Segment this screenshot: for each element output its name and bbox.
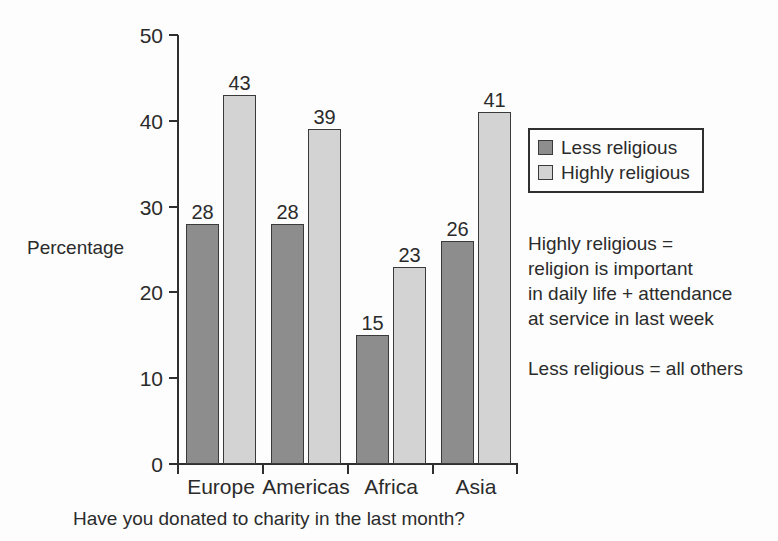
note-highly-religious-definition: Highly religious = religion is important… (528, 231, 743, 331)
chart-figure: Percentage 50 40 30 20 10 0 (0, 0, 778, 541)
x-tick-label-europe: Europe (187, 476, 255, 497)
bar-value-europe-highly: 43 (228, 73, 250, 93)
bar-value-americas-less: 28 (276, 202, 298, 222)
bar-value-americas-highly: 39 (313, 107, 335, 127)
legend-label-less-religious: Less religious (561, 138, 677, 157)
plot-area: 50 40 30 20 10 0 28 43 (178, 35, 517, 464)
bar-group-europe: 28 43 Europe (186, 35, 256, 464)
chart-caption: Have you donated to charity in the last … (73, 509, 465, 528)
bar-group-americas: 28 39 Americas (271, 35, 341, 464)
bar-europe-highly-religious[interactable]: 43 (223, 95, 256, 464)
x-tick-label-asia: Asia (456, 476, 497, 497)
y-tick-label-10: 10 (140, 368, 163, 389)
note-line-5: Less religious = all others (528, 356, 743, 381)
legend-item-highly-religious[interactable]: Highly religious (538, 160, 690, 185)
note-less-religious-definition: Less religious = all others (528, 356, 743, 381)
note-line-3: in daily life + attendance (528, 281, 743, 306)
x-tick-label-americas: Americas (262, 476, 350, 497)
y-tick-label-0: 0 (151, 454, 163, 475)
bar-europe-less-religious[interactable]: 28 (186, 224, 219, 464)
y-tick-label-20: 20 (140, 282, 163, 303)
annotations: Highly religious = religion is important… (528, 231, 743, 381)
y-tick-10: 10 (169, 377, 178, 379)
legend-label-highly-religious: Highly religious (561, 163, 690, 182)
y-tick-20: 20 (169, 291, 178, 293)
bar-value-asia-highly: 41 (483, 90, 505, 110)
x-tick-3 (432, 464, 434, 474)
legend-item-less-religious[interactable]: Less religious (538, 135, 690, 160)
bar-value-europe-less: 28 (191, 202, 213, 222)
y-tick-50: 50 (169, 34, 178, 36)
bar-asia-highly-religious[interactable]: 41 (478, 112, 511, 464)
light-gray-swatch-icon (538, 165, 553, 180)
y-tick-label-30: 30 (140, 196, 163, 217)
x-tick-0 (177, 464, 179, 474)
legend: Less religious Highly religious (528, 128, 704, 193)
bar-americas-less-religious[interactable]: 28 (271, 224, 304, 464)
bar-africa-less-religious[interactable]: 15 (356, 335, 389, 464)
x-tick-1 (262, 464, 264, 474)
y-tick-30: 30 (169, 206, 178, 208)
y-tick-label-40: 40 (140, 110, 163, 131)
note-line-1: Highly religious = (528, 231, 743, 256)
bar-asia-less-religious[interactable]: 26 (441, 241, 474, 464)
x-tick-4 (516, 464, 518, 474)
bar-group-asia: 26 41 Asia (441, 35, 511, 464)
y-axis-title: Percentage (27, 238, 124, 257)
y-axis-line (177, 35, 179, 464)
dark-gray-swatch-icon (538, 140, 553, 155)
bar-value-asia-less: 26 (446, 219, 468, 239)
x-tick-2 (347, 464, 349, 474)
bar-value-africa-highly: 23 (398, 245, 420, 265)
bar-group-africa: 15 23 Africa (356, 35, 426, 464)
note-line-4: at service in last week (528, 306, 743, 331)
x-tick-label-africa: Africa (364, 476, 418, 497)
y-tick-label-50: 50 (140, 25, 163, 46)
bar-value-africa-less: 15 (361, 313, 383, 333)
note-line-2: religion is important (528, 256, 743, 281)
bar-africa-highly-religious[interactable]: 23 (393, 267, 426, 464)
bar-americas-highly-religious[interactable]: 39 (308, 129, 341, 464)
y-tick-40: 40 (169, 120, 178, 122)
